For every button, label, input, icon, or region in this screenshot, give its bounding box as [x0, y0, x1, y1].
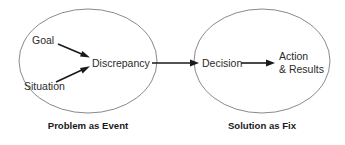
discrepancy-to-decision-arrow: [152, 60, 199, 67]
node-label-discrepancy: Discrepancy: [92, 57, 151, 69]
diagram-canvas: Goal Situation Discrepancy Decision Acti…: [0, 0, 345, 145]
node-label-action: Action: [279, 50, 308, 62]
caption-problem-as-event: Problem as Event: [48, 120, 129, 131]
node-label-situation: Situation: [24, 80, 65, 92]
goal-to-discrepancy-arrow: [58, 44, 90, 58]
decision-to-action-arrow: [241, 60, 275, 67]
caption-solution-as-fix: Solution as Fix: [228, 120, 297, 131]
node-label-decision: Decision: [202, 57, 242, 69]
node-label-results: & Results: [279, 63, 324, 75]
node-label-goal: Goal: [32, 34, 54, 46]
flow-diagram: Goal Situation Discrepancy Decision Acti…: [0, 0, 345, 145]
